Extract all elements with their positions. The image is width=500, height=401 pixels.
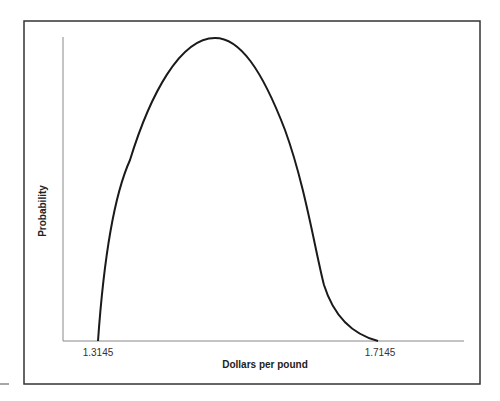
chart-frame	[24, 21, 480, 384]
y-axis-title: Probability	[37, 185, 48, 237]
chart: 1.3145 1.7145 Dollars per pound Probabil…	[0, 0, 500, 401]
x-tick-max: 1.7145	[365, 347, 396, 358]
x-tick-min: 1.3145	[83, 347, 114, 358]
probability-curve	[98, 38, 378, 341]
x-axis-title: Dollars per pound	[222, 359, 308, 370]
